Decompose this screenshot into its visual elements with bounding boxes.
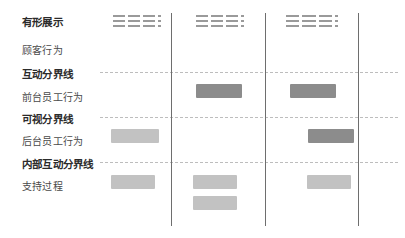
evidence-dash-segment <box>158 15 161 17</box>
evidence-dash-segment <box>143 25 155 27</box>
evidence-dash-segment <box>226 25 238 27</box>
column-divider-3 <box>358 13 359 226</box>
evidence-dash-segment <box>128 20 140 22</box>
row-label-customer-action: 顾客行为 <box>22 42 63 57</box>
evidence-dash-segment <box>335 20 338 22</box>
evidence-lines-2 <box>196 15 244 27</box>
row-label-interaction-line: 互动分界线 <box>22 66 73 81</box>
evidence-dash-row <box>113 15 161 17</box>
evidence-dash-segment <box>286 20 299 22</box>
evidence-dash-segment <box>302 15 315 17</box>
column-divider-1 <box>171 13 172 226</box>
evidence-dash-segment <box>211 15 223 17</box>
evidence-dash-segment <box>241 20 244 22</box>
service-blueprint-diagram: 有形展示顾客行为互动分界线前台员工行为可视分界线后台员工行为内部互动分界线支持过… <box>0 0 405 238</box>
row-label-physical-evidence: 有形展示 <box>22 14 63 29</box>
separator-interaction-divider <box>100 72 398 73</box>
evidence-dash-segment <box>319 15 332 17</box>
row-label-backstage-action: 后台员工行为 <box>22 133 83 148</box>
evidence-dash-row <box>113 25 161 27</box>
evidence-dash-segment <box>226 20 238 22</box>
evidence-dash-segment <box>335 15 338 17</box>
process-box-support-box-1[interactable] <box>111 175 155 189</box>
row-label-support-process: 支持过程 <box>22 178 63 193</box>
process-box-support-box-2a[interactable] <box>193 175 237 189</box>
evidence-dash-row <box>286 25 338 27</box>
evidence-dash-segment <box>196 20 208 22</box>
evidence-dash-row <box>196 25 244 27</box>
evidence-dash-segment <box>196 15 208 17</box>
row-label-visibility-line: 可视分界线 <box>22 111 73 126</box>
evidence-dash-segment <box>286 25 299 27</box>
evidence-dash-segment <box>158 25 161 27</box>
row-label-onstage-action: 前台员工行为 <box>22 89 83 104</box>
evidence-dash-row <box>196 20 244 22</box>
evidence-dash-segment <box>128 15 140 17</box>
evidence-dash-segment <box>302 20 315 22</box>
evidence-dash-row <box>286 20 338 22</box>
evidence-dash-row <box>286 15 338 17</box>
evidence-dash-segment <box>143 20 155 22</box>
evidence-dash-segment <box>319 20 332 22</box>
process-box-onstage-box-3[interactable] <box>290 84 336 98</box>
evidence-dash-row <box>196 15 244 17</box>
evidence-dash-segment <box>302 25 315 27</box>
evidence-dash-segment <box>158 20 161 22</box>
evidence-dash-segment <box>196 25 208 27</box>
column-divider-2 <box>265 13 266 226</box>
evidence-dash-segment <box>241 25 244 27</box>
evidence-dash-segment <box>113 25 125 27</box>
process-box-support-box-3[interactable] <box>307 175 351 189</box>
evidence-dash-segment <box>143 15 155 17</box>
evidence-dash-segment <box>319 25 332 27</box>
process-box-backstage-box-3[interactable] <box>308 129 354 143</box>
evidence-dash-segment <box>128 25 140 27</box>
evidence-lines-1 <box>113 15 161 27</box>
evidence-dash-segment <box>241 15 244 17</box>
evidence-dash-segment <box>113 20 125 22</box>
evidence-dash-row <box>113 20 161 22</box>
evidence-dash-segment <box>211 25 223 27</box>
evidence-dash-segment <box>335 25 338 27</box>
process-box-backstage-box-1[interactable] <box>111 129 159 143</box>
evidence-dash-segment <box>113 15 125 17</box>
process-box-onstage-box-2[interactable] <box>196 84 242 98</box>
evidence-lines-3 <box>286 15 338 27</box>
evidence-dash-segment <box>226 15 238 17</box>
evidence-dash-segment <box>286 15 299 17</box>
row-label-internal-line: 内部互动分界线 <box>22 156 93 171</box>
evidence-dash-segment <box>211 20 223 22</box>
separator-internal-divider <box>100 162 398 163</box>
process-box-support-box-2b[interactable] <box>193 196 237 210</box>
separator-visibility-divider <box>100 117 398 118</box>
